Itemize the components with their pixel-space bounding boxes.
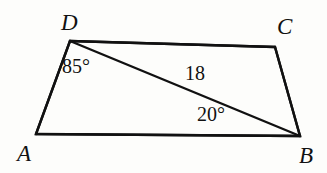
vertex-label-c: C	[277, 15, 292, 38]
angle-label-d: 85°	[62, 56, 90, 76]
side-length-label-db: 18	[185, 63, 205, 83]
angle-label-b: 20°	[197, 104, 225, 124]
diagonal-db	[70, 41, 300, 136]
vertex-label-b: B	[299, 144, 313, 167]
vertex-label-a: A	[17, 142, 31, 165]
geometry-figure: D C A B 85° 18 20°	[0, 0, 327, 173]
edge-cb	[275, 47, 300, 136]
edge-dc	[70, 41, 275, 47]
edge-ab	[36, 134, 300, 136]
vertex-label-d: D	[61, 11, 78, 34]
